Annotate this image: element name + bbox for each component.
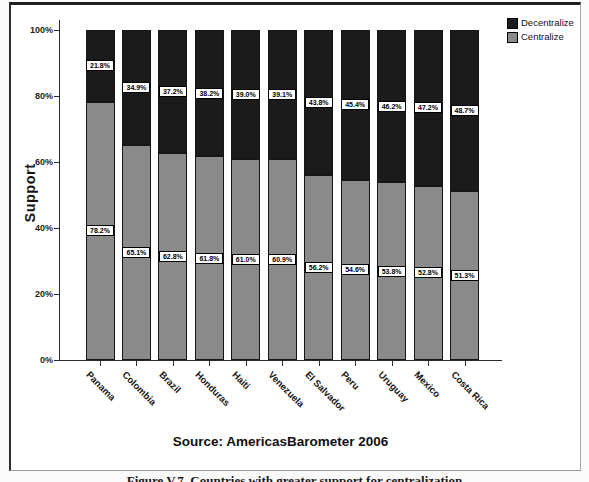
category-label-peru: Peru	[339, 369, 362, 392]
y-tick	[54, 162, 59, 163]
value-label-centralize-costa-rica: 51.3%	[451, 270, 479, 281]
category-label-uruguay: Uruguay	[376, 369, 411, 404]
category-label-honduras: Honduras	[194, 369, 233, 408]
x-tick	[319, 361, 320, 366]
y-axis-line	[59, 20, 60, 361]
value-label-centralize-venezuela: 60.9%	[268, 254, 296, 265]
y-tick-label: 80%	[19, 91, 53, 101]
category-label-panama: Panama	[84, 369, 118, 403]
y-tick	[54, 30, 59, 31]
category-label-mexico: Mexico	[412, 369, 443, 400]
value-label-decentralize-uruguay: 46.2%	[378, 101, 406, 112]
value-label-decentralize-honduras: 38.2%	[195, 88, 223, 99]
legend-entry-centralize: Centralize	[507, 31, 574, 43]
y-tick-label: 100%	[19, 25, 53, 35]
y-tick-label: 40%	[19, 223, 53, 233]
x-tick	[173, 361, 174, 366]
value-label-decentralize-mexico: 47.2%	[414, 102, 442, 113]
x-tick	[282, 361, 283, 366]
value-label-decentralize-panama: 21.8%	[86, 60, 114, 71]
source-caption: Source: AmericasBarometer 2006	[59, 434, 502, 449]
x-tick	[428, 361, 429, 366]
value-label-centralize-colombia: 65.1%	[122, 247, 150, 258]
x-tick	[136, 361, 137, 366]
value-label-centralize-peru: 54.6%	[341, 264, 369, 275]
x-tick	[465, 361, 466, 366]
legend-label-decentralize: Decentralize	[521, 17, 574, 29]
value-label-centralize-mexico: 52.8%	[414, 267, 442, 278]
y-tick	[54, 228, 59, 229]
category-label-colombia: Colombia	[121, 369, 159, 407]
value-label-centralize-el-salvador: 56.2%	[305, 262, 333, 273]
legend-swatch-decentralize	[507, 18, 518, 29]
category-label-haiti: Haiti	[230, 369, 252, 391]
value-label-decentralize-haiti: 39.0%	[232, 89, 260, 100]
y-tick	[54, 294, 59, 295]
value-label-centralize-brazil: 62.8%	[159, 251, 187, 262]
y-tick-label: 60%	[19, 157, 53, 167]
value-label-decentralize-el-salvador: 43.8%	[305, 97, 333, 108]
scanned-page: Support Decentralize Centralize 0%20%40%…	[0, 0, 589, 482]
value-label-decentralize-peru: 45.4%	[341, 99, 369, 110]
value-label-decentralize-venezuela: 39.1%	[268, 89, 296, 100]
value-label-centralize-uruguay: 53.8%	[378, 266, 406, 277]
x-axis-line	[59, 360, 502, 361]
value-label-centralize-panama: 78.2%	[86, 225, 114, 236]
value-label-decentralize-costa-rica: 48.7%	[451, 105, 479, 116]
figure-caption: Figure V.7. Countries with greater suppo…	[0, 473, 589, 482]
y-tick-label: 20%	[19, 289, 53, 299]
category-label-costa-rica: Costa Rica	[449, 369, 492, 412]
x-tick	[355, 361, 356, 366]
x-tick	[209, 361, 210, 366]
value-label-centralize-haiti: 61.0%	[232, 254, 260, 265]
legend-entry-decentralize: Decentralize	[507, 17, 574, 29]
x-tick	[392, 361, 393, 366]
legend-label-centralize: Centralize	[521, 31, 564, 43]
y-tick	[54, 96, 59, 97]
category-label-brazil: Brazil	[157, 369, 183, 395]
x-tick	[100, 361, 101, 366]
value-label-centralize-honduras: 61.8%	[195, 253, 223, 264]
stacked-bar-chart: Support Decentralize Centralize 0%20%40%…	[0, 0, 589, 482]
value-label-decentralize-brazil: 37.2%	[159, 86, 187, 97]
category-label-venezuela: Venezuela	[266, 369, 306, 409]
y-tick-label: 0%	[19, 355, 53, 365]
y-tick	[54, 360, 59, 361]
x-tick	[246, 361, 247, 366]
value-label-decentralize-colombia: 34.9%	[122, 82, 150, 93]
chart-legend: Decentralize Centralize	[507, 17, 574, 45]
y-axis-label: Support	[22, 163, 38, 222]
legend-swatch-centralize	[507, 32, 518, 43]
